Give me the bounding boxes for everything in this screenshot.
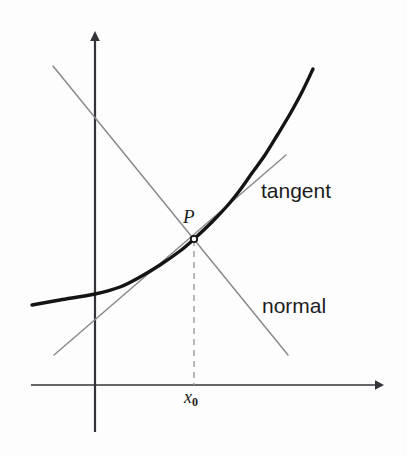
x0-tick-subscript: 0 (192, 395, 198, 409)
x0-tick-label: x0 (184, 388, 198, 406)
normal-label: normal (262, 295, 326, 316)
x-axis (31, 380, 384, 390)
y-axis (90, 31, 100, 432)
point-p-marker (191, 236, 197, 242)
tangent-line (54, 155, 286, 355)
normal-line (53, 66, 288, 355)
x-axis-arrowhead (375, 380, 384, 390)
x0-tick-base: x (184, 387, 192, 407)
tangent-label: tangent (261, 180, 331, 201)
figure-canvas (0, 0, 407, 457)
tangent-normal-figure: tangent normal P x0 (0, 0, 407, 457)
point-p-label: P (183, 207, 195, 226)
y-axis-arrowhead (90, 31, 100, 41)
